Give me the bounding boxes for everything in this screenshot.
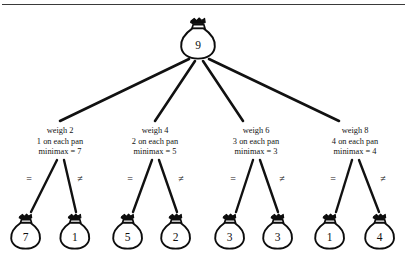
subtree-2-branch-left: [133, 160, 152, 212]
subtree-3-edge-label-right: ≠: [279, 173, 285, 184]
subtree-4-edge-label-left: =: [330, 173, 336, 184]
decision-node-4-line2: 4 on each pan: [332, 137, 379, 146]
leaf-node-1[interactable]: 7: [11, 214, 40, 249]
decision-node-3[interactable]: weigh 6 3 on each pan minimax = 3: [233, 126, 280, 156]
decision-tree-diagram: 9 weigh 2 1 on each pan minimax = 7 = ≠ …: [0, 0, 407, 269]
decision-node-4[interactable]: weigh 8 4 on each pan minimax = 4: [332, 126, 379, 156]
subtree-4-edge-label-right: ≠: [380, 173, 386, 184]
leaf-node-5[interactable]: 3: [215, 214, 244, 249]
subtree-4-branch-left: [336, 160, 352, 212]
root-branch-3: [203, 61, 243, 121]
leaf-node-3[interactable]: 5: [113, 214, 142, 249]
decision-node-1-line3: minimax = 7: [39, 147, 82, 156]
subtree-3-branches: [236, 160, 278, 212]
figure-canvas: 9 weigh 2 1 on each pan minimax = 7 = ≠ …: [0, 0, 407, 269]
root-node[interactable]: 9: [181, 18, 215, 59]
leaf-node-6[interactable]: 3: [263, 214, 292, 249]
decision-node-4-line1: weigh 8: [342, 126, 369, 135]
root-branch-1: [60, 59, 189, 121]
subtree-2-branches: [133, 160, 177, 212]
leaf-node-1-value: 7: [23, 231, 29, 243]
leaf-node-6-value: 3: [275, 231, 281, 243]
root-node-value: 9: [195, 39, 201, 51]
subtree-1-edge-label-right: ≠: [77, 173, 83, 184]
subtree-1-branch-left: [31, 160, 57, 212]
subtree-3-branch-right: [260, 160, 278, 212]
leaf-node-8[interactable]: 4: [365, 214, 394, 249]
subtree-1-branches: [31, 160, 76, 212]
decision-node-4-line3: minimax = 4: [334, 147, 378, 156]
decision-node-3-line1: weigh 6: [243, 126, 270, 135]
leaf-node-8-value: 4: [377, 231, 383, 243]
root-branch-2: [155, 61, 195, 121]
root-branch-4: [209, 59, 339, 121]
leaf-node-2-value: 1: [72, 231, 78, 243]
decision-node-2-line2: 2 on each pan: [132, 137, 179, 146]
leaf-node-7-value: 1: [327, 231, 333, 243]
subtree-1-branch-right: [64, 160, 76, 212]
leaf-node-4-value: 2: [173, 231, 179, 243]
decision-node-2-line3: minimax = 5: [134, 147, 177, 156]
leaf-node-2[interactable]: 1: [60, 214, 89, 249]
subtree-3-branch-left: [236, 160, 253, 212]
subtree-3-edge-label-left: =: [230, 173, 236, 184]
decision-node-2-line1: weigh 4: [142, 126, 170, 135]
leaf-node-3-value: 5: [125, 231, 131, 243]
subtree-4-branches: [336, 160, 379, 212]
subtree-4-branch-right: [359, 160, 379, 212]
subtree-1-edge-label-left: =: [26, 173, 32, 184]
decision-node-1-line2: 1 on each pan: [37, 137, 84, 146]
decision-node-1[interactable]: weigh 2 1 on each pan minimax = 7: [37, 126, 84, 156]
subtree-2-branch-right: [159, 160, 177, 212]
subtree-2-edge-label-right: ≠: [178, 173, 184, 184]
root-branch-group: [60, 59, 339, 121]
subtree-2-edge-label-left: =: [127, 173, 133, 184]
decision-node-3-line2: 3 on each pan: [233, 137, 280, 146]
leaf-node-7[interactable]: 1: [315, 214, 344, 249]
leaf-node-5-value: 3: [227, 231, 233, 243]
decision-node-3-line3: minimax = 3: [235, 147, 278, 156]
leaf-node-4[interactable]: 2: [161, 214, 190, 249]
decision-node-2[interactable]: weigh 4 2 on each pan minimax = 5: [132, 126, 179, 156]
decision-node-1-line1: weigh 2: [47, 126, 74, 135]
